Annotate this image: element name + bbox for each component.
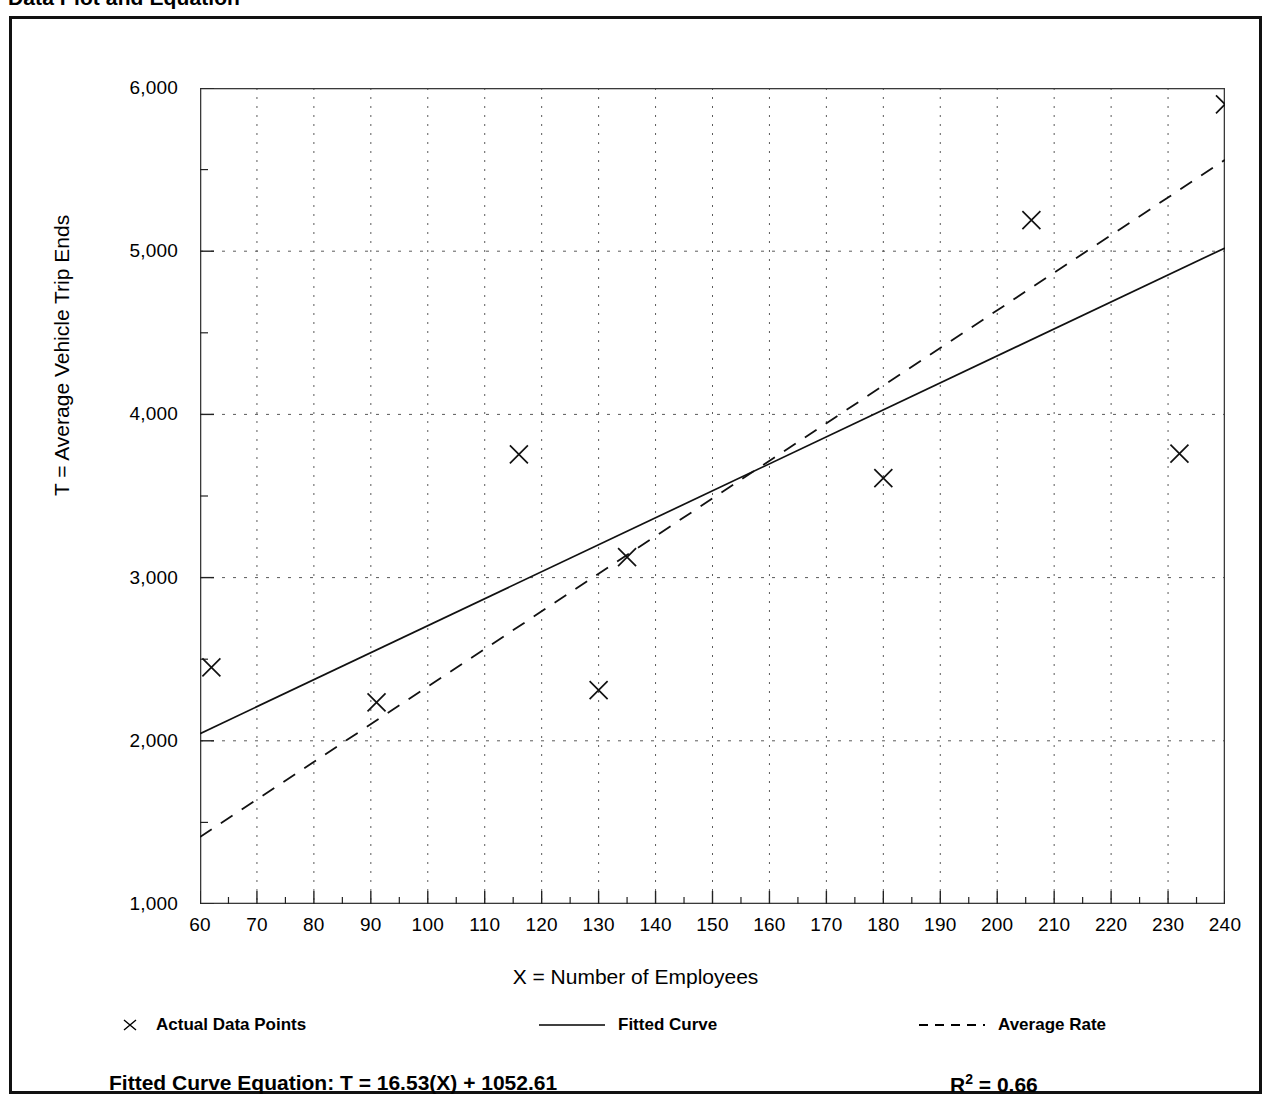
data-point-marker	[1216, 95, 1225, 113]
x-tick-label: 170	[810, 914, 842, 936]
x-axis-title: X = Number of Employees	[12, 965, 1259, 989]
figure-frame: T = Average Vehicle Trip Ends 1,0002,000…	[9, 16, 1262, 1094]
data-point-marker	[202, 658, 220, 676]
legend-solid-line-icon	[539, 1017, 605, 1033]
data-point-marker	[1170, 445, 1188, 463]
page-title: Data Plot and Equation	[8, 0, 240, 10]
legend-item-average-rate: Average Rate	[919, 1015, 1106, 1035]
y-tick-label: 1,000	[72, 893, 178, 915]
x-tick-label: 120	[526, 914, 558, 936]
r-squared-number: = 0.66	[979, 1073, 1038, 1096]
fitted-curve-equation: Fitted Curve Equation: T = 16.53(X) + 10…	[109, 1071, 557, 1095]
x-tick-label: 60	[189, 914, 211, 936]
r-squared-value: R2 = 0.66	[950, 1071, 1038, 1097]
y-tick-label: 5,000	[72, 240, 178, 262]
legend-label: Actual Data Points	[156, 1015, 306, 1035]
data-point-marker	[510, 445, 528, 463]
series-line-fitted-curve	[200, 248, 1225, 734]
x-tick-label: 130	[582, 914, 614, 936]
series-line-average-rate	[200, 160, 1225, 837]
data-point-marker	[368, 693, 386, 711]
x-tick-label: 190	[924, 914, 956, 936]
x-tick-label: 180	[867, 914, 899, 936]
x-tick-label: 230	[1152, 914, 1184, 936]
y-axis-title: T = Average Vehicle Trip Ends	[50, 215, 74, 496]
plot-area	[200, 88, 1225, 904]
x-tick-label: 220	[1095, 914, 1127, 936]
data-point-marker	[618, 548, 636, 566]
y-tick-label: 4,000	[72, 403, 178, 425]
x-tick-label: 200	[981, 914, 1013, 936]
x-tick-label: 90	[360, 914, 382, 936]
x-tick-label: 160	[753, 914, 785, 936]
chart-legend: Actual Data Points Fitted Curve Average …	[12, 1015, 1259, 1045]
equation-row: Fitted Curve Equation: T = 16.53(X) + 10…	[12, 1071, 1259, 1105]
legend-dashed-line-icon	[919, 1017, 985, 1033]
y-tick-label: 2,000	[72, 730, 178, 752]
x-tick-label: 210	[1038, 914, 1070, 936]
x-tick-label: 110	[469, 914, 500, 936]
legend-label: Fitted Curve	[618, 1015, 717, 1035]
legend-item-actual-data-points: Actual Data Points	[117, 1015, 306, 1035]
r-squared-exponent: 2	[965, 1071, 973, 1087]
x-tick-label: 100	[412, 914, 444, 936]
legend-item-fitted-curve: Fitted Curve	[539, 1015, 717, 1035]
y-tick-label: 3,000	[72, 567, 178, 589]
r-squared-symbol: R	[950, 1073, 965, 1096]
x-tick-label: 240	[1209, 914, 1241, 936]
y-tick-label: 6,000	[72, 77, 178, 99]
plot-canvas	[200, 88, 1225, 904]
x-tick-label: 70	[246, 914, 268, 936]
data-point-marker	[1022, 211, 1040, 229]
legend-marker-x-icon	[117, 1017, 143, 1033]
x-tick-label: 150	[696, 914, 728, 936]
x-tick-label: 140	[639, 914, 671, 936]
x-tick-label: 80	[303, 914, 325, 936]
legend-label: Average Rate	[998, 1015, 1106, 1035]
